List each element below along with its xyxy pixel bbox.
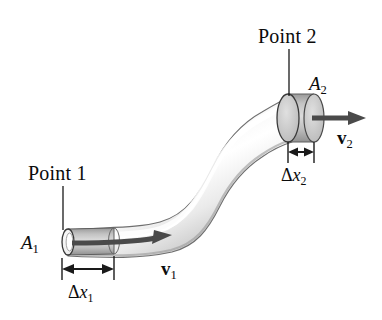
dimension-delta-x1 — [62, 256, 114, 280]
velocity1-subscript: 1 — [171, 268, 177, 282]
delta1-symbol: Δ — [68, 282, 80, 302]
area1-symbol: A — [21, 232, 33, 253]
delta2-subscript: 2 — [301, 174, 307, 188]
point1-label: Point 1 — [28, 163, 87, 183]
flow-tube-figure: Point 1 Point 2 A1 A2 v1 v2 Δx1 Δx2 — [0, 0, 382, 320]
velocity1-label: v1 — [161, 259, 177, 281]
outlet-cross-section-A2 — [277, 94, 299, 142]
delta2-variable: x — [293, 165, 301, 185]
area1-subscript: 1 — [33, 242, 39, 256]
dx2-arrow-head-left — [288, 148, 298, 157]
delta2-symbol: Δ — [281, 165, 293, 185]
delta-x2-label: Δx2 — [281, 166, 307, 187]
dx1-arrow-head-right — [102, 264, 114, 274]
delta-x1-label: Δx1 — [68, 283, 94, 304]
area1-label: A1 — [21, 233, 39, 255]
delta1-variable: x — [80, 282, 88, 302]
point2-label: Point 2 — [258, 26, 317, 46]
dx2-arrow-head-right — [304, 148, 314, 157]
area2-symbol: A — [309, 73, 321, 94]
velocity2-subscript: 2 — [347, 137, 353, 151]
dx1-arrow-head-left — [62, 264, 74, 274]
delta1-subscript: 1 — [88, 291, 94, 305]
velocity1-symbol: v — [161, 258, 171, 279]
velocity2-label: v2 — [337, 128, 353, 150]
inlet-bore — [66, 233, 73, 251]
flow-tube-illustration — [0, 0, 382, 320]
velocity2-symbol: v — [337, 127, 347, 148]
area2-subscript: 2 — [321, 83, 327, 97]
area2-label: A2 — [309, 74, 327, 96]
dimension-delta-x2 — [288, 142, 314, 163]
v2-arrow-head — [348, 111, 366, 125]
